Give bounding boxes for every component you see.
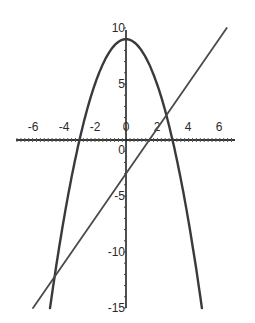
y-tick-label: -5 — [114, 189, 125, 203]
y-tick-label: 5 — [118, 77, 125, 91]
y-axis — [124, 28, 126, 308]
x-tick-label: -2 — [90, 120, 101, 134]
x-tick-labels: -6-4-20246 — [28, 120, 223, 134]
x-tick-label: 0 — [123, 120, 130, 134]
y-tick-label: 10 — [112, 21, 126, 35]
x-tick-label: 4 — [185, 120, 192, 134]
graph: -6-4-20246 1050-5-10-15 — [0, 0, 255, 323]
y-tick-labels: 1050-5-10-15 — [108, 21, 126, 315]
y-tick-label: -15 — [108, 301, 126, 315]
y-tick-label: 0 — [118, 143, 125, 157]
x-tick-label: 6 — [216, 120, 223, 134]
x-tick-label: -4 — [59, 120, 70, 134]
y-tick-label: -10 — [108, 245, 126, 259]
x-tick-label: -6 — [28, 120, 39, 134]
line-graph — [33, 28, 227, 308]
